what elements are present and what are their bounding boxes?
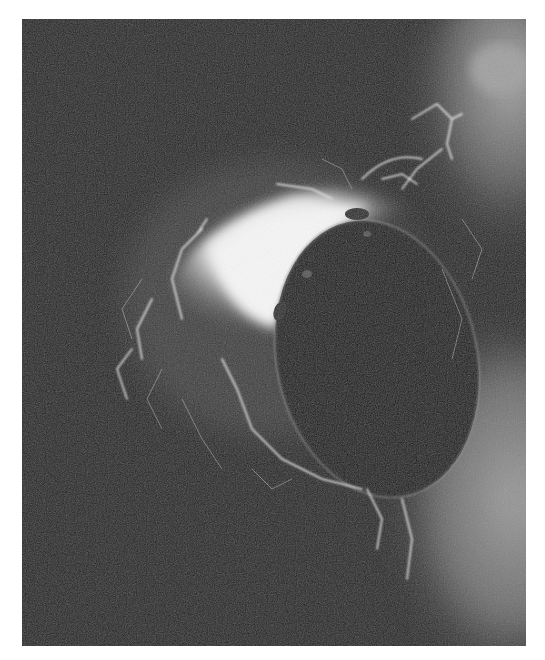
scan-image xyxy=(22,19,526,646)
scan-graphic xyxy=(22,19,526,646)
